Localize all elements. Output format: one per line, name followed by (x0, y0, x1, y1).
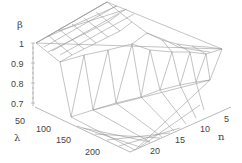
n-tick-15: 15 (175, 135, 185, 145)
z-tick-1: 1 (19, 39, 24, 49)
surface-floor (71, 80, 210, 150)
lambda-tick-150: 150 (56, 135, 71, 145)
n-tick-5: 5 (224, 114, 229, 124)
lambda-tick-100: 100 (36, 124, 51, 134)
lambda-tick-200: 200 (85, 147, 100, 157)
lambda-axis-label: λ (14, 132, 21, 143)
z-tick-0.9: 0.9 (11, 59, 24, 69)
z-tick-0.8: 0.8 (11, 79, 24, 89)
n-axis-label: n (218, 131, 225, 142)
n-tick-20: 20 (150, 146, 160, 156)
n-axis (130, 107, 231, 152)
surface-plot: β 1 0.9 0.8 0.7 50 100 λ 150 200 5 10 n … (0, 0, 242, 163)
n-tick-10: 10 (200, 124, 210, 134)
z-tick-0.7: 0.7 (11, 99, 24, 109)
beta-axis-label: β (17, 19, 23, 30)
lambda-tick-50: 50 (15, 116, 25, 126)
